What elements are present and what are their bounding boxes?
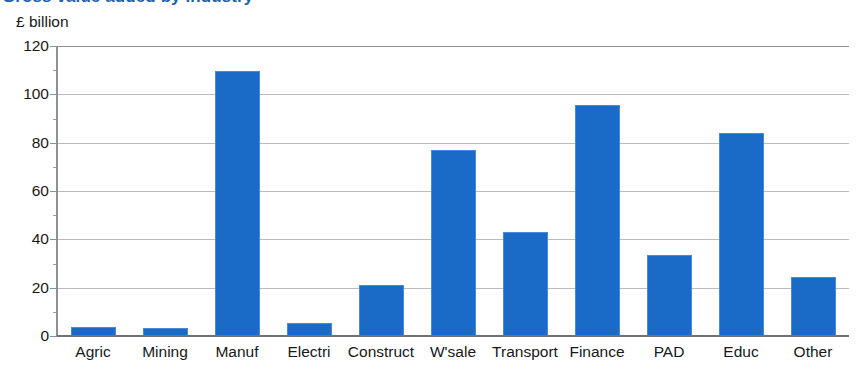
bar	[215, 71, 260, 336]
plot-area	[57, 46, 849, 336]
x-tick-label: PAD	[654, 343, 685, 361]
y-tick-label: 60	[32, 182, 49, 200]
x-tick-label: Transport	[492, 343, 558, 361]
x-axis-tick-labels: AgricMiningManufElectriConstructW'saleTr…	[57, 343, 849, 369]
bar-slot	[287, 46, 332, 336]
bar	[647, 255, 692, 336]
bar-slot	[575, 46, 620, 336]
bar-slot	[647, 46, 692, 336]
bar	[503, 232, 548, 336]
bar	[719, 133, 764, 336]
bar	[575, 105, 620, 336]
y-tick-label: 20	[32, 279, 49, 297]
y-tick-label: 40	[32, 230, 49, 248]
bar-slot	[143, 46, 188, 336]
x-tick-label: Mining	[142, 343, 188, 361]
x-tick-label: Electri	[287, 343, 330, 361]
x-tick-label: Construct	[348, 343, 414, 361]
bar-slot	[215, 46, 260, 336]
x-axis-baseline	[57, 335, 849, 337]
x-tick-label: Agric	[75, 343, 110, 361]
y-tick-label: 0	[40, 327, 49, 345]
bar-slot	[791, 46, 836, 336]
bar-slot	[503, 46, 548, 336]
bar	[287, 323, 332, 336]
bar	[431, 150, 476, 336]
bar-slot	[719, 46, 764, 336]
bar-chart: 020406080100120 AgricMiningManufElectriC…	[0, 0, 858, 379]
y-axis-tick-labels: 020406080100120	[0, 46, 49, 336]
bar	[791, 277, 836, 336]
x-tick-label: Manuf	[215, 343, 258, 361]
y-axis-line	[56, 46, 58, 337]
bar-slot	[431, 46, 476, 336]
x-tick-label: Educ	[723, 343, 758, 361]
y-tick-label: 120	[23, 37, 49, 55]
y-tick-label: 100	[23, 85, 49, 103]
x-tick-label: Finance	[569, 343, 624, 361]
x-tick-label: W'sale	[430, 343, 476, 361]
x-tick-label: Other	[794, 343, 833, 361]
bar-slot	[71, 46, 116, 336]
y-tick-label: 80	[32, 134, 49, 152]
bar	[359, 285, 404, 336]
bar-slot	[359, 46, 404, 336]
